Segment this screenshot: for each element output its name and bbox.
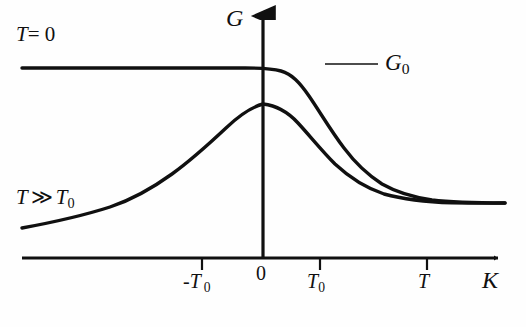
x-tick-label-negative-T0-sub: 0 [204, 280, 211, 295]
curve-label-t-much-greater-var2: T [56, 185, 68, 209]
x-axis-ticks [202, 258, 427, 270]
curve-label-t-equals-zero: T= 0 [16, 24, 55, 45]
x-tick-label-T0: T0 [307, 271, 325, 294]
x-tick-label-negative-T0-main: -T [183, 270, 201, 292]
x-tick-label-origin: 0 [256, 263, 266, 283]
x-axis-label: K [482, 268, 498, 292]
x-tick-label-T0-sub: 0 [318, 280, 325, 295]
g0-level-label-sub: 0 [402, 60, 410, 77]
much-greater-than-icon: ≫ [31, 185, 53, 209]
x-tick-label-T0-main: T [307, 270, 318, 292]
curve-label-t-much-greater-var: T [16, 185, 28, 209]
figure-canvas: T= 0 T≫T0 G G0 K -T0 0 T0 T [0, 0, 526, 327]
x-tick-label-T: T [418, 271, 429, 291]
y-axis-label: G [226, 6, 243, 30]
curve-label-t-equals-zero-relation: = 0 [28, 22, 56, 46]
g0-level-label-var: G [385, 50, 402, 75]
g0-level-label: G0 [385, 51, 409, 77]
curve-label-t-much-greater-sub: 0 [67, 195, 74, 211]
curve-label-t-much-greater: T≫T0 [16, 187, 75, 210]
x-tick-label-negative-T0: -T0 [183, 271, 211, 294]
curve-label-t-equals-zero-var: T [16, 22, 28, 46]
